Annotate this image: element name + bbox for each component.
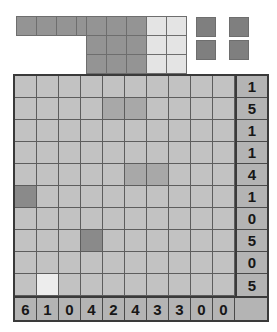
grid-cell-r9-c2[interactable] xyxy=(37,252,59,274)
grid-cell-r9-c9[interactable] xyxy=(191,252,213,274)
grid-cell-r1-c5[interactable] xyxy=(103,76,125,98)
grid-cell-r5-c2[interactable] xyxy=(37,164,59,186)
grid-cell-r2-c2[interactable] xyxy=(37,98,59,120)
grid-cell-r5-c4[interactable] xyxy=(81,164,103,186)
grid-cell-r6-c5[interactable] xyxy=(103,186,125,208)
grid-cell-r9-c4[interactable] xyxy=(81,252,103,274)
grid-cell-r6-c4[interactable] xyxy=(81,186,103,208)
grid-cell-r6-c10[interactable] xyxy=(213,186,235,208)
grid-cell-r1-c3[interactable] xyxy=(59,76,81,98)
grid-cell-r1-c6[interactable] xyxy=(125,76,147,98)
grid-cell-r3-c4[interactable] xyxy=(81,120,103,142)
grid-cell-r3-c8[interactable] xyxy=(169,120,191,142)
grid-cell-r2-c3[interactable] xyxy=(59,98,81,120)
grid-cell-r8-c8[interactable] xyxy=(169,230,191,252)
piece-single-square-top-right[interactable] xyxy=(229,17,249,37)
grid-cell-r9-c5[interactable] xyxy=(103,252,125,274)
grid-cell-r10-c9[interactable] xyxy=(191,274,213,296)
grid-cell-r7-c2[interactable] xyxy=(37,208,59,230)
piece-single-square-top-left[interactable] xyxy=(196,17,216,37)
grid-cell-r4-c4[interactable] xyxy=(81,142,103,164)
grid-cell-r8-c3[interactable] xyxy=(59,230,81,252)
grid-cell-r4-c10[interactable] xyxy=(213,142,235,164)
grid-cell-r3-c7[interactable] xyxy=(147,120,169,142)
grid-cell-r1-c1[interactable] xyxy=(15,76,37,98)
grid-cell-r3-c3[interactable] xyxy=(59,120,81,142)
grid-cell-r9-c3[interactable] xyxy=(59,252,81,274)
grid-cell-r8-c2[interactable] xyxy=(37,230,59,252)
grid-cell-r2-c5[interactable] xyxy=(103,98,125,120)
grid-cell-r7-c6[interactable] xyxy=(125,208,147,230)
grid-cell-r4-c3[interactable] xyxy=(59,142,81,164)
grid-cell-r6-c8[interactable] xyxy=(169,186,191,208)
grid-cell-r9-c6[interactable] xyxy=(125,252,147,274)
piece-square-block-3x3[interactable] xyxy=(87,17,147,74)
grid-cell-r1-c2[interactable] xyxy=(37,76,59,98)
grid-cell-r6-c9[interactable] xyxy=(191,186,213,208)
grid-cell-r8-c10[interactable] xyxy=(213,230,235,252)
grid-cell-r3-c1[interactable] xyxy=(15,120,37,142)
grid-cell-r7-c5[interactable] xyxy=(103,208,125,230)
grid-cell-r5-c8[interactable] xyxy=(169,164,191,186)
grid-cell-r3-c2[interactable] xyxy=(37,120,59,142)
grid-cell-r3-c6[interactable] xyxy=(125,120,147,142)
grid-cell-r10-c5[interactable] xyxy=(103,274,125,296)
grid-cell-r8-c5[interactable] xyxy=(103,230,125,252)
grid-cell-r8-c1[interactable] xyxy=(15,230,37,252)
grid-cell-r7-c10[interactable] xyxy=(213,208,235,230)
grid-cell-r10-c1[interactable] xyxy=(15,274,37,296)
grid-cell-r8-c4[interactable] xyxy=(81,230,103,252)
grid-cell-r2-c9[interactable] xyxy=(191,98,213,120)
grid-cell-r5-c6[interactable] xyxy=(125,164,147,186)
grid-cell-r9-c1[interactable] xyxy=(15,252,37,274)
grid-cell-r10-c8[interactable] xyxy=(169,274,191,296)
grid-cell-r7-c4[interactable] xyxy=(81,208,103,230)
grid-cell-r2-c8[interactable] xyxy=(169,98,191,120)
grid-cell-r4-c1[interactable] xyxy=(15,142,37,164)
grid-cell-r6-c6[interactable] xyxy=(125,186,147,208)
grid-cell-r7-c7[interactable] xyxy=(147,208,169,230)
grid-cell-r8-c9[interactable] xyxy=(191,230,213,252)
grid-cell-r9-c7[interactable] xyxy=(147,252,169,274)
grid-cell-r7-c3[interactable] xyxy=(59,208,81,230)
grid-cell-r9-c8[interactable] xyxy=(169,252,191,274)
grid-cell-r6-c7[interactable] xyxy=(147,186,169,208)
grid-cell-r10-c10[interactable] xyxy=(213,274,235,296)
grid-cell-r7-c9[interactable] xyxy=(191,208,213,230)
grid-cell-r1-c8[interactable] xyxy=(169,76,191,98)
grid-cell-r2-c10[interactable] xyxy=(213,98,235,120)
grid-cell-r2-c7[interactable] xyxy=(147,98,169,120)
grid-cell-r3-c10[interactable] xyxy=(213,120,235,142)
grid-cell-r5-c7[interactable] xyxy=(147,164,169,186)
grid-cell-r1-c4[interactable] xyxy=(81,76,103,98)
grid-cell-r2-c6[interactable] xyxy=(125,98,147,120)
grid-cell-r5-c5[interactable] xyxy=(103,164,125,186)
grid-cell-r4-c6[interactable] xyxy=(125,142,147,164)
grid-cell-r2-c4[interactable] xyxy=(81,98,103,120)
grid-cell-r4-c9[interactable] xyxy=(191,142,213,164)
grid-cell-r6-c2[interactable] xyxy=(37,186,59,208)
grid-cell-r7-c8[interactable] xyxy=(169,208,191,230)
grid-cell-r5-c3[interactable] xyxy=(59,164,81,186)
grid-cell-r10-c3[interactable] xyxy=(59,274,81,296)
grid-cell-r7-c1[interactable] xyxy=(15,208,37,230)
piece-single-square-bottom-left[interactable] xyxy=(196,40,216,60)
grid-cell-r10-c6[interactable] xyxy=(125,274,147,296)
grid-cell-r8-c6[interactable] xyxy=(125,230,147,252)
grid-cell-r5-c9[interactable] xyxy=(191,164,213,186)
grid-cell-r4-c5[interactable] xyxy=(103,142,125,164)
piece-single-square-bottom-right[interactable] xyxy=(229,40,249,60)
grid-cell-r4-c7[interactable] xyxy=(147,142,169,164)
grid-cell-r8-c7[interactable] xyxy=(147,230,169,252)
puzzle-grid[interactable] xyxy=(15,76,237,296)
piece-horizontal-strip-1x4[interactable] xyxy=(17,17,97,36)
grid-cell-r4-c8[interactable] xyxy=(169,142,191,164)
grid-cell-r3-c9[interactable] xyxy=(191,120,213,142)
grid-cell-r10-c4[interactable] xyxy=(81,274,103,296)
grid-cell-r1-c7[interactable] xyxy=(147,76,169,98)
grid-cell-r1-c10[interactable] xyxy=(213,76,235,98)
grid-cell-r3-c5[interactable] xyxy=(103,120,125,142)
grid-cell-r1-c9[interactable] xyxy=(191,76,213,98)
grid-cell-r5-c10[interactable] xyxy=(213,164,235,186)
grid-cell-r2-c1[interactable] xyxy=(15,98,37,120)
